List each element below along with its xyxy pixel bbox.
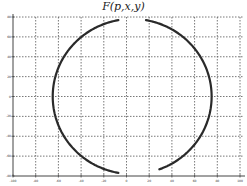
x-tick-label: 0 — [126, 179, 128, 183]
y-tick-label: 20 — [7, 75, 11, 79]
x-tick-label: 100 — [237, 179, 243, 183]
x-tick-label: 80 — [215, 179, 219, 183]
y-tick-label: -60 — [6, 154, 11, 158]
y-tick-label: 40 — [7, 55, 11, 59]
plot-area: -100-80-60-40-20020406080100806040200-20… — [0, 0, 247, 186]
y-tick-label: -40 — [6, 134, 11, 138]
x-tick-label: -40 — [79, 179, 84, 183]
x-tick-label: -80 — [33, 179, 38, 183]
y-tick-label: -80 — [6, 174, 11, 178]
x-tick-label: -60 — [56, 179, 61, 183]
x-tick-label: 40 — [170, 179, 174, 183]
x-tick-label: -100 — [10, 179, 17, 183]
x-tick-label: 60 — [193, 179, 197, 183]
y-tick-label: 60 — [7, 35, 11, 39]
x-tick-label: 20 — [147, 179, 151, 183]
y-tick-label: 0 — [9, 95, 11, 99]
grid-lines — [13, 17, 244, 176]
y-tick-label: 80 — [7, 15, 11, 19]
axes — [13, 14, 245, 176]
x-tick-label: -20 — [101, 179, 106, 183]
tick-labels: -100-80-60-40-20020406080100806040200-20… — [6, 15, 243, 183]
y-tick-label: -20 — [6, 114, 11, 118]
